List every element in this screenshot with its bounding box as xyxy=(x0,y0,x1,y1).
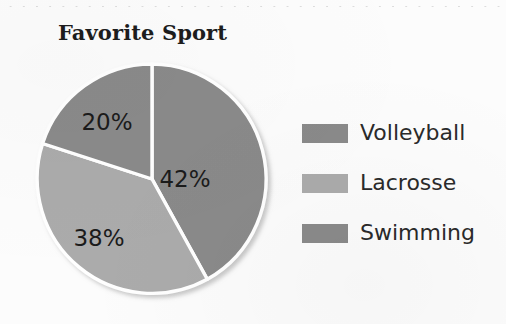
pie-chart: 42% 38% 20% xyxy=(33,60,277,304)
legend-item-lacrosse: Lacrosse xyxy=(302,158,502,208)
pie-body xyxy=(37,64,266,293)
legend-swatch-swimming xyxy=(302,224,348,243)
pie-label-lacrosse: 38% xyxy=(73,225,124,251)
legend-item-volleyball: Volleyball xyxy=(302,108,502,158)
legend-label-swimming: Swimming xyxy=(360,222,475,244)
pie-label-volleyball: 42% xyxy=(159,166,210,192)
page-top-dotted-rule xyxy=(0,3,506,8)
pie-label-swimming: 20% xyxy=(81,109,132,135)
legend-label-volleyball: Volleyball xyxy=(360,122,465,144)
pie-chart-svg: 42% 38% 20% xyxy=(33,60,277,304)
legend-label-lacrosse: Lacrosse xyxy=(360,172,456,194)
chart-legend: Volleyball Lacrosse Swimming xyxy=(302,108,502,258)
legend-swatch-lacrosse xyxy=(302,174,348,193)
chart-title: Favorite Sport xyxy=(58,20,227,45)
legend-item-swimming: Swimming xyxy=(302,208,502,258)
legend-swatch-volleyball xyxy=(302,124,348,143)
